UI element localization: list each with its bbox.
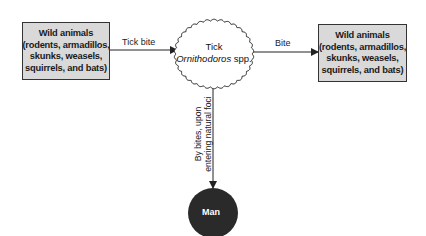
tick-title: Tick: [176, 41, 252, 53]
target-box-line: (rodents, armadillos,: [319, 42, 406, 54]
target-box-line: skunks, weasels,: [326, 53, 398, 65]
edge-label-by-bites-line1: By bites, upon: [193, 84, 203, 184]
tick-node-label: Tick Ornithodoros spp.: [176, 41, 252, 65]
source-box-line: squirrels, and bats): [25, 63, 107, 75]
source-box-line: skunks, weasels,: [30, 51, 102, 63]
edge-label-by-bites-line2: entering natural foci: [203, 84, 213, 184]
tick-spp: spp.: [231, 53, 252, 64]
transmission-diagram: Wild animals (rodents, armadillos, skunk…: [0, 0, 426, 236]
source-box-title: Wild animals: [39, 28, 93, 40]
target-box-line: squirrels, and bats): [322, 65, 404, 77]
edge-label-tick-bite: Tick bite: [122, 37, 155, 47]
edge-label-bite: Bite: [275, 38, 291, 48]
target-wild-animals-box: Wild animals (rodents, armadillos, skunk…: [318, 24, 407, 82]
target-box-title: Wild animals: [335, 30, 389, 42]
edge-label-by-bites: By bites, upon entering natural foci: [193, 84, 215, 184]
source-wild-animals-box: Wild animals (rodents, armadillos, skunk…: [22, 22, 110, 80]
man-node-label: Man: [202, 207, 220, 217]
tick-genus: Ornithodoros: [176, 53, 231, 64]
source-box-line: (rodents, armadillos,: [22, 40, 109, 52]
tick-species: Ornithodoros spp.: [176, 53, 252, 65]
